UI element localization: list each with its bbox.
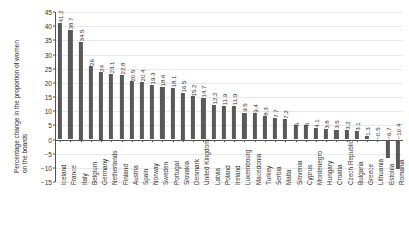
bar[interactable] xyxy=(355,131,359,140)
bar[interactable] xyxy=(334,130,338,140)
bar-group[interactable]: 18.1Portugal xyxy=(168,12,178,182)
bar[interactable] xyxy=(130,81,134,139)
bar-group[interactable]: 18.6Sweden xyxy=(157,12,167,182)
bar-group[interactable]: −6.7Estonia xyxy=(383,12,393,182)
y-tick-label: 30 xyxy=(45,51,52,58)
bar-value-label: 20.5 xyxy=(128,69,135,81)
bar-group[interactable]: 15.2Denmark xyxy=(188,12,198,182)
bar-group[interactable]: 16.5Slovakia xyxy=(178,12,188,182)
y-tick-label: 15 xyxy=(45,94,52,101)
bar[interactable] xyxy=(273,118,277,140)
bar-group[interactable]: 5Cyprus xyxy=(301,12,311,182)
x-tick-mark xyxy=(183,140,184,143)
bar[interactable] xyxy=(222,106,226,140)
bar[interactable] xyxy=(171,88,175,139)
bar[interactable] xyxy=(283,119,287,139)
x-tick-mark xyxy=(265,140,266,143)
bar-group[interactable]: 24Germany xyxy=(96,12,106,182)
bar-value-label: 3.8 xyxy=(323,120,330,129)
bar[interactable] xyxy=(99,72,103,140)
bar-group[interactable]: 34.5Italy xyxy=(75,12,85,182)
x-tick-mark xyxy=(214,140,215,143)
bar[interactable] xyxy=(324,129,328,140)
bar[interactable] xyxy=(68,30,72,140)
bar[interactable] xyxy=(181,93,185,140)
bar-group[interactable]: 3.1Bulgaria xyxy=(352,12,362,182)
bar-group[interactable]: 3.5Croatia xyxy=(331,12,341,182)
bar[interactable] xyxy=(140,82,144,140)
bar[interactable] xyxy=(293,125,297,139)
bar-group[interactable]: 3.2Czech Republic xyxy=(342,12,352,182)
x-tick-mark xyxy=(70,140,71,143)
x-tick-mark xyxy=(377,140,378,143)
bar[interactable] xyxy=(58,23,62,140)
bar[interactable] xyxy=(314,128,318,140)
bar-value-label: 16.5 xyxy=(179,80,186,92)
bar-value-label: −0.5 xyxy=(374,127,381,139)
bar-value-label: 7.2 xyxy=(282,110,289,119)
y-tick-label: −10 xyxy=(41,164,52,171)
bar[interactable] xyxy=(89,66,93,140)
bar[interactable] xyxy=(242,113,246,140)
bar-value-label: 11.9 xyxy=(231,94,238,106)
bar-value-label: 3.5 xyxy=(333,121,340,130)
bar-group[interactable]: 22.8Finland xyxy=(116,12,126,182)
bar[interactable] xyxy=(212,105,216,140)
bar[interactable] xyxy=(345,130,349,139)
bar-value-label: 26 xyxy=(87,59,94,66)
bar-group[interactable]: 5Slovenia xyxy=(290,12,300,182)
bar-group[interactable]: 7.7Serbia xyxy=(270,12,280,182)
bar-group[interactable]: 12.2Latvia xyxy=(209,12,219,182)
x-tick-mark xyxy=(81,140,82,143)
bar-group[interactable]: −10.4Romania xyxy=(393,12,403,182)
bar[interactable] xyxy=(252,113,256,140)
bar-group[interactable]: 14.7United Kingdom xyxy=(198,12,208,182)
bar-value-label: 12.2 xyxy=(210,93,217,105)
bar-group[interactable]: 38.7France xyxy=(65,12,75,182)
x-tick-mark xyxy=(152,140,153,143)
bar[interactable] xyxy=(263,116,267,140)
bar-group[interactable]: 4.1Montenegro xyxy=(311,12,321,182)
bar-group[interactable]: 20.5Austria xyxy=(127,12,137,182)
y-tick-label: 45 xyxy=(45,9,52,16)
bar[interactable] xyxy=(191,96,195,139)
bar-group[interactable]: 23.1Netherlands xyxy=(106,12,116,182)
bar[interactable] xyxy=(386,140,390,159)
bar[interactable] xyxy=(201,98,205,140)
bar[interactable] xyxy=(232,106,236,140)
bar[interactable] xyxy=(160,87,164,140)
bar-group[interactable]: 8.3Turkey xyxy=(260,12,270,182)
bar-group[interactable]: 19.3Norway xyxy=(147,12,157,182)
bar-group[interactable]: 1.3Greece xyxy=(362,12,372,182)
bar-group[interactable]: −0.5Lithuania xyxy=(372,12,382,182)
bar-group[interactable]: 20.4Spain xyxy=(137,12,147,182)
bar-group[interactable]: 7.2Malta xyxy=(280,12,290,182)
bar[interactable] xyxy=(119,75,123,140)
bar[interactable] xyxy=(109,74,113,139)
x-tick-mark xyxy=(132,140,133,143)
bar-group[interactable]: 3.8Hungary xyxy=(321,12,331,182)
x-tick-mark xyxy=(275,140,276,143)
bar-value-label: 5 xyxy=(302,122,309,125)
bar-group[interactable]: 9.4Macedonia xyxy=(249,12,259,182)
y-tick-label: 0 xyxy=(48,136,52,143)
bar-group[interactable]: 9.5Luxembourg xyxy=(239,12,249,182)
bar[interactable] xyxy=(150,85,154,140)
plot-area: 454035302520151050−5−10−15 41.2Iceland38… xyxy=(55,12,403,182)
y-tick-label: 10 xyxy=(45,108,52,115)
x-tick-mark xyxy=(316,140,317,143)
bar[interactable] xyxy=(78,42,82,140)
x-tick-mark xyxy=(244,140,245,143)
bar[interactable] xyxy=(304,125,308,139)
bar-group[interactable]: 26Belgium xyxy=(86,12,96,182)
bar-value-label: 9.5 xyxy=(241,104,248,113)
x-tick-mark xyxy=(101,140,102,143)
bar-value-label: 34.5 xyxy=(77,29,84,41)
bar-group[interactable]: 11.9Poland xyxy=(219,12,229,182)
bar-group[interactable]: 11.9Ireland xyxy=(229,12,239,182)
x-tick-mark xyxy=(91,140,92,143)
bar-group[interactable]: 41.2Iceland xyxy=(55,12,65,182)
bar-value-label: 18.6 xyxy=(159,74,166,86)
bar-value-label: 18.1 xyxy=(169,76,176,88)
y-tick-label: −5 xyxy=(44,150,52,157)
